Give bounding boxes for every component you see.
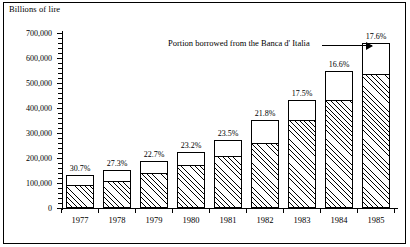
y-axis-minor-tick [58, 68, 62, 69]
y-axis-tick-label: 700,000 [6, 29, 52, 38]
annotation-leader-line [322, 45, 372, 46]
y-axis-minor-tick [58, 143, 62, 144]
bar-hatched-portion-1977 [66, 185, 94, 208]
y-axis-minor-tick [58, 48, 62, 49]
y-axis-title: Billions of lire [9, 4, 60, 14]
y-axis-major-tick [57, 58, 63, 59]
x-axis-line [57, 208, 398, 209]
bar-value-label-1981: 23.5% [218, 129, 239, 138]
x-axis-tick [357, 208, 358, 213]
bar-value-label-1979: 22.7% [144, 150, 165, 159]
chart-figure: Billions of lire 0100,000200,000300,0004… [0, 0, 410, 247]
x-axis-label-1983: 1983 [294, 215, 311, 225]
y-axis-minor-tick [58, 128, 62, 129]
y-axis-tick-label: 0 [6, 204, 52, 213]
y-axis-major-tick [57, 158, 63, 159]
y-axis-tick-label: 500,000 [6, 79, 52, 88]
x-axis-tick [246, 208, 247, 213]
x-axis-tick [394, 208, 395, 213]
y-axis-minor-tick [58, 148, 62, 149]
x-axis-label-1977: 1977 [72, 215, 89, 225]
y-axis-major-tick [57, 108, 63, 109]
x-axis-tick [172, 208, 173, 213]
bar-value-label-1980: 23.2% [181, 141, 202, 150]
y-axis-major-tick [57, 83, 63, 84]
y-axis-minor-tick [58, 73, 62, 74]
bar-hatched-portion-1978 [103, 181, 131, 208]
x-axis-tick [135, 208, 136, 213]
x-axis-label-1985: 1985 [368, 215, 385, 225]
x-axis-label-1984: 1984 [331, 215, 348, 225]
x-axis-label-1981: 1981 [220, 215, 237, 225]
x-axis-tick [61, 208, 62, 213]
y-axis-major-tick [57, 183, 63, 184]
y-axis-minor-tick [58, 63, 62, 64]
y-axis-major-tick [57, 33, 63, 34]
x-axis-tick [98, 208, 99, 213]
y-axis-minor-tick [58, 138, 62, 139]
bar-value-label-1983: 17.5% [292, 89, 313, 98]
y-axis-minor-tick [58, 88, 62, 89]
y-axis-minor-tick [58, 193, 62, 194]
bar-value-label-1984: 16.6% [329, 60, 350, 69]
y-axis-major-tick [57, 133, 63, 134]
bar-value-label-1977: 30.7% [70, 164, 91, 173]
y-axis-minor-tick [58, 203, 62, 204]
y-axis-tick-label: 600,000 [6, 54, 52, 63]
x-axis-tick [283, 208, 284, 213]
bar-hatched-portion-1982 [251, 143, 279, 208]
y-axis-tick-label: 400,000 [6, 104, 52, 113]
y-axis-minor-tick [58, 53, 62, 54]
y-axis-minor-tick [58, 188, 62, 189]
y-axis-tick-label: 300,000 [6, 129, 52, 138]
bar-value-label-1978: 27.3% [107, 159, 128, 168]
y-axis-minor-tick [58, 153, 62, 154]
y-axis-minor-tick [58, 43, 62, 44]
y-axis-major-tick [57, 208, 63, 209]
bar-hatched-portion-1979 [140, 173, 168, 208]
y-axis-minor-tick [58, 78, 62, 79]
x-axis-tick [320, 208, 321, 213]
x-axis-tick [209, 208, 210, 213]
y-axis-minor-tick [58, 173, 62, 174]
y-axis-minor-tick [58, 113, 62, 114]
annotation-arrow-icon [366, 42, 373, 50]
y-axis-minor-tick [58, 103, 62, 104]
y-axis-minor-tick [58, 198, 62, 199]
x-axis-label-1980: 1980 [183, 215, 200, 225]
bar-hatched-portion-1980 [177, 165, 205, 208]
annotation-label: Portion borrowed from the Banca d' Itali… [168, 38, 310, 48]
y-axis-minor-tick [58, 168, 62, 169]
bar-hatched-portion-1981 [214, 156, 242, 208]
bar-hatched-portion-1984 [325, 100, 353, 208]
x-axis-label-1978: 1978 [109, 215, 126, 225]
bar-hatched-portion-1985 [362, 74, 390, 208]
y-axis-minor-tick [58, 163, 62, 164]
y-axis-minor-tick [58, 98, 62, 99]
y-axis-minor-tick [58, 38, 62, 39]
y-axis-tick-label: 100,000 [6, 179, 52, 188]
bar-value-label-1982: 21.8% [255, 109, 276, 118]
y-axis-minor-tick [58, 123, 62, 124]
y-axis-minor-tick [58, 178, 62, 179]
y-axis-tick-label: 200,000 [6, 154, 52, 163]
bar-value-label-1985: 17.6% [366, 32, 387, 41]
y-axis-minor-tick [58, 118, 62, 119]
y-axis-minor-tick [58, 93, 62, 94]
bar-hatched-portion-1983 [288, 120, 316, 208]
x-axis-label-1979: 1979 [146, 215, 163, 225]
x-axis-label-1982: 1982 [257, 215, 274, 225]
